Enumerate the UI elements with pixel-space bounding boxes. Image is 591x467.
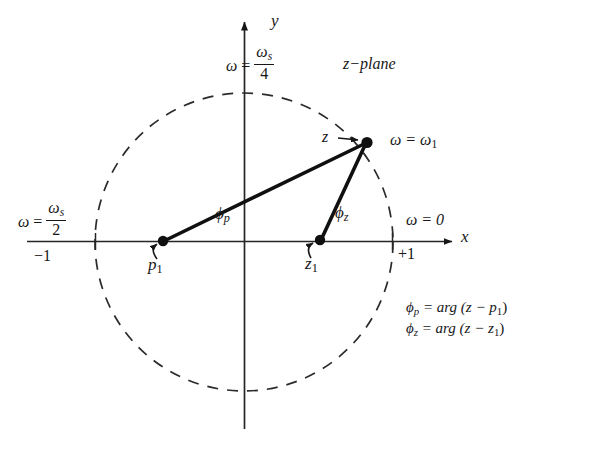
equals-sign-left: = bbox=[33, 213, 42, 230]
pole-p1-label: p1 bbox=[148, 256, 163, 276]
omega-s-over-four-fraction: ωs 4 bbox=[254, 44, 274, 82]
vector-z1-to-z bbox=[321, 143, 366, 240]
omega-quarter-label: ω = ωs 4 bbox=[226, 44, 274, 82]
zero-z1-label: z1 bbox=[305, 255, 318, 275]
diagram-canvas bbox=[0, 0, 591, 467]
point-z-marker bbox=[361, 137, 372, 148]
equation-phi-z-body: = arg (z − z bbox=[422, 320, 494, 336]
fraction-denominator-two: 2 bbox=[46, 221, 66, 238]
point-p1-marker bbox=[158, 236, 168, 246]
omega-half-label: ω = ωs 2 bbox=[18, 200, 66, 238]
z1-symbol: z bbox=[305, 254, 312, 273]
equation-phi-p-body: = arg (z − p bbox=[423, 299, 497, 315]
phi-z-subscript: z bbox=[344, 210, 349, 224]
equation-phi-p: ϕp = arg (z − p1) bbox=[406, 300, 507, 317]
equation-phi-p-symbol: ϕ bbox=[406, 299, 414, 315]
equation-phi-z-symbol: ϕ bbox=[406, 320, 414, 336]
point-z1-marker bbox=[315, 235, 325, 245]
omega-s-symbol-left: ω bbox=[48, 199, 59, 216]
omega-one-label: ω = ω1 bbox=[390, 132, 437, 151]
x-tick-label-minus-one: −1 bbox=[34, 248, 51, 264]
phi-z-symbol: ϕ bbox=[335, 203, 344, 222]
omega-symbol: ω bbox=[226, 57, 237, 74]
equals-sign: = bbox=[241, 57, 250, 74]
omega-s-subscript-top: s bbox=[268, 50, 272, 62]
x-tick-label-plus-one: +1 bbox=[398, 246, 415, 262]
omega-one-subscript: 1 bbox=[431, 138, 437, 150]
equation-phi-p-subscript: p bbox=[414, 305, 419, 317]
omega-s-subscript-left: s bbox=[60, 206, 64, 218]
p1-subscript: 1 bbox=[157, 262, 163, 276]
z-plane-text: z−plane bbox=[343, 55, 396, 72]
omega-s-over-two-fraction: ωs 2 bbox=[46, 200, 66, 238]
x-axis-label: x bbox=[461, 228, 469, 245]
phi-p-angle-label: ϕp bbox=[215, 205, 230, 225]
p1-symbol: p bbox=[148, 255, 157, 274]
equation-phi-z-close-paren: ) bbox=[499, 320, 504, 336]
vector-p1-to-z bbox=[164, 143, 366, 241]
equation-phi-p-close-paren: ) bbox=[502, 299, 507, 315]
z1-subscript: 1 bbox=[312, 261, 318, 275]
z-plane-diagram: y x ω = ωs 4 z−plane ω = ω1 z ω = ωs 2 ω… bbox=[0, 0, 591, 467]
y-axis-label: y bbox=[271, 12, 279, 29]
omega-s-symbol-top: ω bbox=[256, 43, 267, 60]
z-label-leader-arrow bbox=[338, 138, 358, 140]
omega-zero-label: ω = 0 bbox=[406, 212, 444, 228]
phi-p-subscript: p bbox=[224, 211, 230, 225]
z-plane-label: z−plane bbox=[343, 56, 396, 72]
point-z-label: z bbox=[322, 129, 328, 145]
phi-p-symbol: ϕ bbox=[215, 204, 224, 223]
omega-symbol-left: ω bbox=[18, 213, 29, 230]
fraction-denominator-four: 4 bbox=[254, 65, 274, 82]
equation-phi-z-subscript: z bbox=[414, 326, 418, 338]
equation-phi-z: ϕz = arg (z − z1) bbox=[406, 321, 504, 338]
omega-one-text: ω = ω bbox=[390, 131, 431, 148]
phi-z-angle-label: ϕz bbox=[335, 204, 349, 224]
